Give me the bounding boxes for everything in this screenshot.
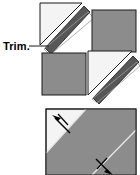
trim-diagram-canvas xyxy=(0,0,140,104)
four-patch-trim-diagram: Trim. xyxy=(0,0,140,104)
block-bottom-left xyxy=(42,53,86,95)
dark-square-bottom-left xyxy=(42,53,86,95)
block-top-right xyxy=(92,10,136,52)
press-diagram-canvas xyxy=(0,106,140,175)
block-top-left xyxy=(40,3,94,55)
trim-label: Trim. xyxy=(3,40,30,52)
seam-pressing-diagram xyxy=(0,106,140,175)
diagram-root: Trim. xyxy=(0,0,140,175)
dark-square-top-right xyxy=(92,10,136,52)
block-bottom-right xyxy=(88,51,140,104)
